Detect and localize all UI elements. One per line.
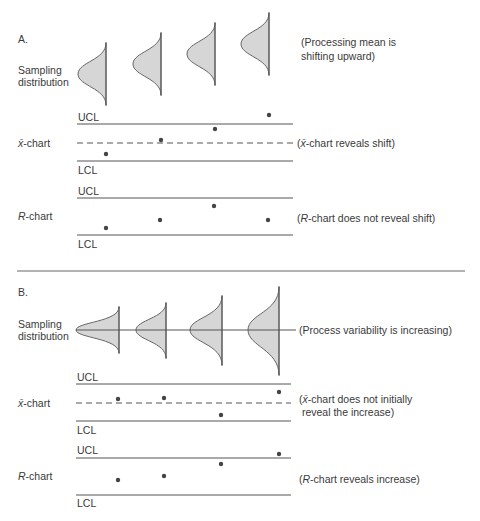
ucl-label: UCL <box>77 444 98 456</box>
distribution-curve <box>187 23 215 85</box>
ucl-label: UCL <box>78 111 99 123</box>
panelA-xbar-points <box>104 113 271 156</box>
panelA-xbar-chart <box>77 124 293 161</box>
distribution-curve <box>241 13 269 75</box>
sampling-distribution-label: Sampling <box>18 64 62 76</box>
xbar-chart-note: (x̄-chart reveals shift) <box>297 137 395 150</box>
xbar-chart-note: (x̄-chart does not initially reveal the … <box>299 393 412 419</box>
panelB-distributions <box>76 286 296 376</box>
panelA-label: A. <box>18 33 28 45</box>
r-chart-note: (R-chart does not reveal shift) <box>297 212 435 225</box>
r-chart-note: (R-chart reveals increase) <box>299 473 420 486</box>
panelA-sampling-note: (Processing mean is <box>301 36 396 49</box>
lcl-label: LCL <box>77 497 96 509</box>
lcl-label: LCL <box>78 164 97 176</box>
distribution-curve <box>248 287 279 375</box>
xbar-chart-label: x̄-chart <box>18 397 50 409</box>
ucl-label: UCL <box>78 185 99 197</box>
r-chart-label: R-chart <box>18 470 52 482</box>
panelB-xbar-chart <box>76 384 291 421</box>
sampling-distribution-label: distribution <box>18 76 69 88</box>
panelB-r-points <box>116 452 281 482</box>
control-chart-diagram <box>0 0 480 521</box>
r-chart-label: R-chart <box>18 210 52 222</box>
distribution-curve <box>133 33 161 95</box>
distribution-curve <box>78 43 106 105</box>
panelB-label: B. <box>18 286 28 298</box>
lcl-label: LCL <box>77 424 96 436</box>
panelA-r-points <box>104 204 270 230</box>
panelA-sampling-note: shifting upward) <box>301 50 375 63</box>
xbar-chart-label: x̄-chart <box>18 137 50 149</box>
sampling-distribution-label: Sampling <box>18 318 62 330</box>
lcl-label: LCL <box>78 238 97 250</box>
panelA-r-chart <box>77 198 293 235</box>
panelB-sampling-note: (Process variability is increasing) <box>299 324 452 337</box>
sampling-distribution-label: distribution <box>18 330 69 342</box>
ucl-label: UCL <box>77 371 98 383</box>
panelB-r-chart <box>76 458 291 495</box>
panelA-distributions <box>78 12 269 106</box>
